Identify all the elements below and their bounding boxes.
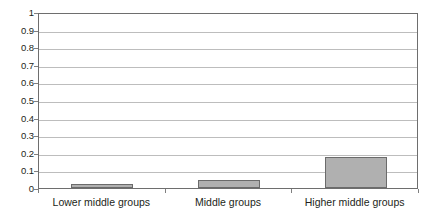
- x-tick-label: Middle groups: [195, 196, 261, 209]
- y-tick-mark: [34, 13, 38, 14]
- y-tick-label: 0.5: [0, 96, 34, 106]
- y-tick-mark: [34, 48, 38, 49]
- plot-area: [38, 13, 418, 189]
- y-tick-mark: [34, 189, 38, 190]
- bar[interactable]: [325, 157, 387, 188]
- x-axis-labels: Lower middle groupsMiddle groupsHigher m…: [38, 196, 418, 214]
- x-tick-mark: [418, 189, 419, 193]
- y-tick-label: 0.8: [0, 43, 34, 53]
- y-tick-label: 0: [0, 184, 34, 194]
- bar[interactable]: [198, 180, 260, 188]
- y-tick-mark: [34, 66, 38, 67]
- y-tick-mark: [34, 31, 38, 32]
- y-tick-label: 0.6: [0, 79, 34, 89]
- bar-chart: 00.10.20.30.40.50.60.70.80.91 Lower midd…: [0, 0, 436, 223]
- x-tick-label: Lower middle groups: [53, 196, 150, 209]
- y-tick-mark: [34, 119, 38, 120]
- y-tick-label: 0.2: [0, 149, 34, 159]
- y-tick-mark: [34, 171, 38, 172]
- y-tick-label: 0.9: [0, 26, 34, 36]
- x-tick-mark: [38, 189, 39, 193]
- y-tick-mark: [34, 136, 38, 137]
- x-tick-mark: [165, 189, 166, 193]
- y-tick-mark: [34, 154, 38, 155]
- bar-slot: [166, 14, 293, 188]
- bar-slot: [39, 14, 166, 188]
- bars-layer: [39, 14, 417, 188]
- bar-slot: [292, 14, 419, 188]
- x-tick-label: Higher middle groups: [305, 196, 405, 209]
- y-tick-mark: [34, 101, 38, 102]
- y-tick-label: 0.1: [0, 167, 34, 177]
- bar[interactable]: [71, 184, 133, 188]
- y-tick-label: 0.4: [0, 114, 34, 124]
- y-tick-label: 0.3: [0, 131, 34, 141]
- y-tick-mark: [34, 83, 38, 84]
- y-axis: 00.10.20.30.40.50.60.70.80.91: [0, 13, 34, 189]
- y-tick-label: 1: [0, 8, 34, 18]
- y-tick-label: 0.7: [0, 61, 34, 71]
- x-tick-mark: [291, 189, 292, 193]
